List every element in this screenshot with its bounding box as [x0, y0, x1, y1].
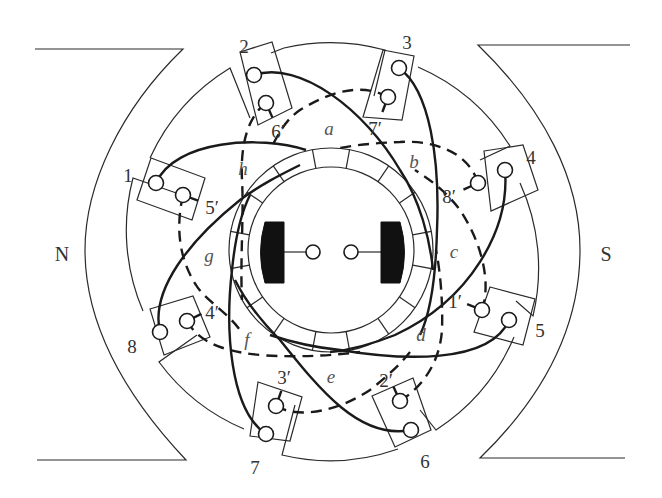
outer-terminal-2 — [247, 68, 262, 83]
inner-terminal-6 — [393, 394, 408, 409]
segment-label-c: c — [450, 242, 458, 261]
return-label-3p: 3′ — [277, 368, 291, 387]
pole-label-south: S — [600, 244, 611, 264]
coil-label-1: 1 — [123, 166, 133, 185]
commutator-segment-divider — [378, 166, 389, 182]
segment-label-d: d — [416, 325, 426, 344]
slot-box-1 — [137, 158, 205, 220]
coil-label-2: 2 — [239, 37, 249, 56]
inner-terminal-7 — [269, 399, 284, 414]
coil-label-5: 5 — [535, 321, 545, 340]
brush-terminal-left — [306, 245, 320, 259]
commutator-segment-divider — [413, 231, 432, 234]
diagram-svg — [0, 0, 662, 498]
commutator-segment-divider — [231, 231, 250, 234]
return-label-5p: 5′ — [205, 198, 219, 217]
commutator-segment-divider — [413, 265, 432, 268]
return-label-6p: 6′ — [271, 122, 285, 141]
segment-label-h: h — [238, 159, 248, 178]
outer-terminal-1 — [149, 176, 164, 191]
slot-boxes — [137, 42, 538, 447]
commutator-segment-divider — [399, 297, 415, 308]
commutator-segment-divider — [312, 150, 315, 169]
brushes — [261, 222, 405, 283]
pole-label-north: N — [55, 244, 69, 264]
segment-label-a: a — [324, 119, 334, 138]
inner-terminal-3 — [381, 90, 396, 105]
inner-terminal-1 — [176, 188, 191, 203]
segment-label-e: e — [327, 367, 335, 386]
coil-label-6: 6 — [420, 452, 430, 471]
coil-front-wire-1 — [156, 142, 306, 183]
segment-label-f: f — [244, 330, 249, 349]
inner-terminal-8 — [180, 314, 195, 329]
return-label-8p: 8′ — [442, 187, 456, 206]
brush-left — [261, 222, 285, 283]
outer-terminal-8 — [153, 325, 168, 340]
commutator-segment-divider — [346, 150, 349, 169]
coil-label-7: 7 — [250, 458, 260, 477]
outer-terminal-5 — [502, 313, 517, 328]
outer-terminal-7 — [259, 427, 274, 442]
winding-diagram: N S 1 2 3 4 5 6 7 8 5′ 6′ 7′ 8′ 1′ 2′ 3′… — [0, 0, 662, 498]
segment-label-g: g — [204, 246, 214, 265]
return-label-7p: 7′ — [368, 119, 382, 138]
commutator-segment-divider — [378, 318, 389, 334]
segment-label-b: b — [409, 152, 419, 171]
brush-right — [381, 222, 405, 283]
inner-terminal-5 — [475, 303, 490, 318]
return-label-2p: 2′ — [379, 371, 393, 390]
inner-terminal-2 — [259, 96, 274, 111]
commutator-segment-divider — [346, 332, 349, 351]
coil-label-4: 4 — [526, 148, 536, 167]
outer-terminal-6 — [404, 423, 419, 438]
brush-terminal-right — [344, 245, 358, 259]
outer-terminal-3 — [392, 61, 407, 76]
outer-terminal-4 — [498, 163, 513, 178]
inner-terminal-4 — [471, 176, 486, 191]
return-label-1p: 1′ — [448, 292, 462, 311]
slot-box-3 — [363, 50, 414, 120]
return-label-4p: 4′ — [205, 303, 219, 322]
commutator-segment-divider — [273, 318, 284, 334]
coil-label-8: 8 — [127, 337, 137, 356]
coil-label-3: 3 — [402, 33, 412, 52]
coil-front-wire-7 — [229, 195, 266, 434]
